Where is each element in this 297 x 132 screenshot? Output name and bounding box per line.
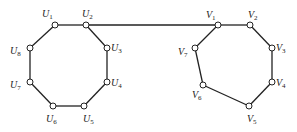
nodes-group [27, 22, 275, 109]
edge-v4-v5 [249, 82, 272, 106]
label-v2: V2 [248, 9, 258, 22]
label-u6: U6 [46, 113, 57, 126]
edge-u6-u7 [30, 82, 53, 106]
node-u6 [50, 103, 56, 109]
label-u4: U4 [111, 77, 122, 90]
node-v3 [269, 45, 275, 51]
edge-v7-v1 [195, 25, 218, 48]
edge-u8-u1 [30, 25, 55, 48]
node-u2 [83, 22, 89, 28]
edge-v5-v6 [203, 85, 249, 106]
node-v7 [192, 45, 198, 51]
graph-diagram: U1U2U3U4U5U6U7U8V1V2V3V4V5V6V7 [0, 0, 297, 132]
node-v4 [269, 79, 275, 85]
edge-v2-v3 [250, 25, 272, 48]
node-v1 [215, 22, 221, 28]
node-u8 [27, 45, 33, 51]
label-v5: V5 [247, 113, 257, 126]
label-u2: U2 [82, 8, 93, 21]
label-v6: V6 [192, 89, 202, 102]
node-v6 [200, 82, 206, 88]
node-u4 [104, 79, 110, 85]
label-u8: U8 [10, 45, 21, 58]
node-v2 [247, 22, 253, 28]
label-u5: U5 [83, 113, 94, 126]
node-u5 [81, 103, 87, 109]
edge-u4-u5 [84, 82, 107, 106]
node-u7 [27, 79, 33, 85]
label-v1: V1 [206, 9, 216, 22]
node-u1 [52, 22, 58, 28]
node-u3 [104, 45, 110, 51]
label-u1: U1 [42, 8, 53, 21]
edges-group [30, 25, 272, 106]
label-u3: U3 [111, 42, 122, 55]
label-v3: V3 [276, 42, 286, 55]
label-v4: V4 [276, 77, 286, 90]
edge-v6-v7 [195, 48, 203, 85]
node-v5 [246, 103, 252, 109]
graph-svg: U1U2U3U4U5U6U7U8V1V2V3V4V5V6V7 [0, 0, 297, 132]
label-u7: U7 [10, 79, 21, 92]
edge-u2-u3 [86, 25, 107, 48]
label-v7: V7 [178, 46, 188, 59]
